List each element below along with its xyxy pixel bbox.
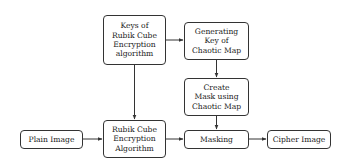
node-rubik-cube-encryption: Rubik Cube Encryption Algorithm xyxy=(103,120,166,158)
node-cipher-image: Cipher Image xyxy=(267,130,331,149)
node-generating-key: Generating Key of Chaotic Map xyxy=(184,22,249,60)
node-create-mask: Create Mask using Chaotic Map xyxy=(184,78,249,116)
node-plain-image: Plain Image xyxy=(20,130,83,149)
node-keys-of-rubik-cube: Keys of Rubik Cube Encryption algorithm xyxy=(103,15,166,65)
node-masking: Masking xyxy=(184,130,249,149)
